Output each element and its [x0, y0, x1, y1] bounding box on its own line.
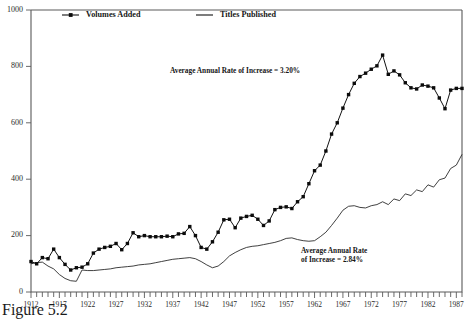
series-marker: [381, 53, 384, 56]
titles-growth-annotation-line2: of Increase = 2.84%: [301, 255, 363, 264]
axis-frame: [31, 10, 462, 292]
y-tick-label: 200: [11, 230, 23, 239]
series-marker: [398, 73, 401, 76]
volumes-growth-annotation: Average Annual Rate of Increase = 3.20%: [170, 66, 300, 75]
figure-container: Volumes AddedTitles Published 0200400600…: [0, 0, 473, 320]
legend-label: Volumes Added: [86, 10, 141, 19]
series-marker: [41, 256, 44, 259]
y-tick-label: 1000: [7, 5, 23, 14]
series-marker: [336, 121, 339, 124]
series-marker: [256, 218, 259, 221]
y-tick-label: 400: [11, 174, 23, 183]
titles-growth-annotation-line1: Average Annual Rate: [301, 246, 368, 255]
series-marker: [63, 263, 66, 266]
series-marker: [290, 207, 293, 210]
series-marker: [233, 226, 236, 229]
series-marker: [35, 262, 38, 265]
series-marker: [426, 84, 429, 87]
series-marker: [432, 86, 435, 89]
series-marker: [69, 268, 72, 271]
series-marker: [114, 242, 117, 245]
series-marker: [438, 96, 441, 99]
legend-square-marker: [69, 13, 73, 17]
series-marker: [341, 106, 344, 109]
series-marker: [364, 71, 367, 74]
x-tick-label: 1947: [222, 300, 237, 309]
series-marker: [409, 86, 412, 89]
series-marker: [302, 195, 305, 198]
series-marker: [330, 132, 333, 135]
series-marker: [171, 235, 174, 238]
chart-legend: Volumes AddedTitles Published: [62, 10, 276, 19]
y-tick-label: 800: [11, 61, 23, 70]
legend-label: Titles Published: [220, 10, 276, 19]
series-marker: [415, 87, 418, 90]
series-marker: [148, 235, 151, 238]
series-marker: [182, 232, 185, 235]
series-marker: [319, 163, 322, 166]
series-marker: [375, 64, 378, 67]
series-marker: [137, 235, 140, 238]
series-marker: [160, 235, 163, 238]
series-marker: [103, 246, 106, 249]
series-marker: [347, 93, 350, 96]
series-marker: [370, 68, 373, 71]
series-marker: [239, 216, 242, 219]
series-marker: [177, 232, 180, 235]
series-marker: [58, 256, 61, 259]
series-marker: [143, 234, 146, 237]
series-marker: [296, 200, 299, 203]
figure-caption: Figure 5.2: [2, 303, 162, 320]
series-marker: [421, 83, 424, 86]
series-marker: [199, 246, 202, 249]
series-marker: [80, 265, 83, 268]
y-axis-tick-labels: 02004006008001000: [7, 5, 23, 296]
series-marker: [75, 266, 78, 269]
x-tick-label: 1952: [250, 300, 265, 309]
series-marker: [97, 247, 100, 250]
library-growth-line-chart: Volumes AddedTitles Published 0200400600…: [0, 0, 473, 320]
series-marker: [449, 88, 452, 91]
series-marker: [194, 234, 197, 237]
series-line-volumes-added: [31, 55, 462, 270]
series-marker: [307, 182, 310, 185]
series-marker: [86, 262, 89, 265]
series-marker: [285, 205, 288, 208]
series-marker: [228, 218, 231, 221]
series-marker: [262, 224, 265, 227]
series-marker: [52, 247, 55, 250]
series-marker: [245, 215, 248, 218]
series-marker: [443, 107, 446, 110]
y-tick-label: 0: [19, 287, 23, 296]
series-marker: [404, 81, 407, 84]
series-marker: [387, 73, 390, 76]
series-marker: [455, 87, 458, 90]
series-marker: [279, 206, 282, 209]
series-marker: [358, 75, 361, 78]
series-marker: [120, 248, 123, 251]
series-marker: [154, 235, 157, 238]
series-marker: [126, 242, 129, 245]
series-marker: [313, 169, 316, 172]
series-marker: [273, 208, 276, 211]
y-tick-label: 600: [11, 118, 23, 127]
series-marker: [216, 231, 219, 234]
x-tick-label: 1972: [364, 300, 379, 309]
series-marker: [92, 251, 95, 254]
x-tick-label: 1962: [307, 300, 322, 309]
x-tick-label: 1967: [335, 300, 350, 309]
series-marker: [29, 260, 32, 263]
series-marker: [267, 219, 270, 222]
x-tick-label: 1982: [420, 300, 435, 309]
series-marker: [324, 149, 327, 152]
series-marker: [211, 240, 214, 243]
series-marker: [392, 69, 395, 72]
chart-series-lines: [31, 55, 462, 281]
series-marker: [222, 218, 225, 221]
series-marker: [131, 231, 134, 234]
x-tick-label: 1942: [194, 300, 209, 309]
x-tick-label: 1957: [279, 300, 294, 309]
x-tick-label: 1987: [449, 300, 464, 309]
series-marker: [165, 234, 168, 237]
chart-series-markers: [29, 53, 463, 271]
